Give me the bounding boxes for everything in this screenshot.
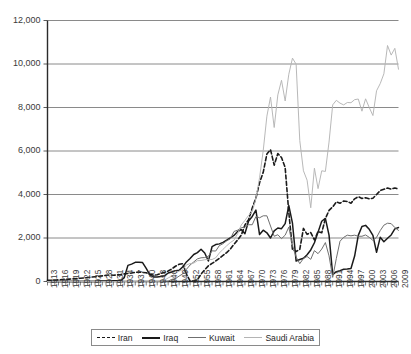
legend-label: Saudi Arabia [265,333,314,343]
x-tick-label: 1994 [347,269,355,287]
x-tick-label: 1973 [270,269,278,287]
x-tick-label: 1967 [248,269,256,287]
solid-lightgray-line-icon [244,337,262,338]
x-tick-label: 1982 [303,269,311,287]
x-tick-label: 1916 [62,269,70,287]
x-tick-label: 2003 [380,269,388,287]
x-tick-label: 1931 [117,269,125,287]
solid-black-line-icon [142,337,160,339]
legend-label: Iraq [163,333,178,343]
x-tick-label: 1937 [138,269,146,287]
x-tick-label: 1913 [51,269,59,287]
y-tick-label: 10,000 [0,59,41,68]
x-tick-label: 1997 [358,269,366,287]
x-tick-label: 1988 [325,269,333,287]
legend-entry-iraq[interactable]: Iraq [142,333,178,343]
x-tick-label: 1952 [193,269,201,287]
x-tick-label: 1955 [204,269,212,287]
x-tick-label: 1949 [182,269,190,287]
x-tick-label: 1979 [292,269,300,287]
y-tick-label: 6,000 [0,146,41,155]
series-line-saudi-arabia [48,46,399,282]
y-tick-label: 4,000 [0,190,41,199]
x-tick-label: 1970 [259,269,267,287]
x-tick-label: 2000 [369,269,377,287]
x-tick-label: 1961 [226,269,234,287]
y-tick-label: 12,000 [0,16,41,25]
x-tick-label: 1925 [95,269,103,287]
x-tick-label: 1958 [215,269,223,287]
legend-entry-iran[interactable]: Iran [97,333,133,343]
dashed-black-line-icon [97,337,115,338]
x-tick-label: 2006 [391,269,399,287]
x-tick-label: 1943 [160,269,168,287]
x-tick-label: 1940 [149,269,157,287]
y-tick-label: 0 [0,277,41,286]
legend-entry-kuwait[interactable]: Kuwait [188,333,235,343]
legend-entry-saudi-arabia[interactable]: Saudi Arabia [244,333,314,343]
chart-legend: IranIraqKuwaitSaudi Arabia [91,329,320,346]
x-tick-label: 1919 [73,269,81,287]
x-tick-label: 2009 [402,269,410,287]
x-tick-label: 1928 [106,269,114,287]
y-tick-label: 8,000 [0,103,41,112]
solid-gray-line-icon [188,337,206,338]
oil-production-line-chart: 02,0004,0006,0008,00010,00012,000 191319… [0,0,411,354]
y-tick-label: 2,000 [0,233,41,242]
x-tick-label: 1964 [237,269,245,287]
plot-canvas [0,0,411,354]
x-tick-label: 1991 [336,269,344,287]
series-line-iran [48,150,399,281]
x-tick-label: 1976 [281,269,289,287]
legend-label: Iran [118,333,133,343]
x-tick-label: 1934 [127,269,135,287]
x-tick-label: 1985 [314,269,322,287]
x-tick-label: 1946 [171,269,179,287]
legend-label: Kuwait [209,333,235,343]
x-tick-label: 1922 [84,269,92,287]
